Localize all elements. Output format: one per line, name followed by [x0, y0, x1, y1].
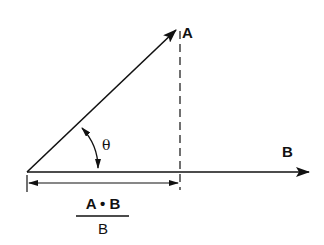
- vector-a-label: A: [182, 24, 193, 41]
- vector-b: B: [27, 143, 309, 172]
- projection-dimension: [27, 175, 178, 192]
- vector-b-label: B: [282, 143, 293, 160]
- angle-label: θ: [102, 137, 110, 153]
- vector-projection-diagram: A B θ A • B B: [0, 0, 324, 245]
- angle-arc-icon: [82, 128, 98, 168]
- projection-fraction: A • B B: [76, 195, 129, 237]
- fraction-denominator: B: [98, 220, 108, 237]
- fraction-numerator: A • B: [86, 195, 121, 212]
- angle-theta: θ: [82, 128, 110, 168]
